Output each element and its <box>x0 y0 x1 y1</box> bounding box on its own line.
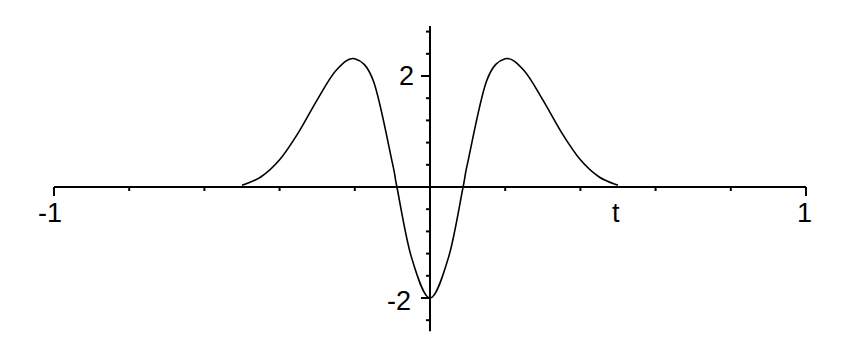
y-axis-negative-label: -2 <box>387 288 411 315</box>
x-axis-variable-label: t <box>612 200 620 227</box>
y-axis-positive-label: 2 <box>399 63 414 90</box>
plot-area <box>0 0 846 347</box>
axes <box>54 26 806 331</box>
x-axis-max-label: 1 <box>797 200 812 227</box>
x-axis-min-label: -1 <box>38 200 62 227</box>
